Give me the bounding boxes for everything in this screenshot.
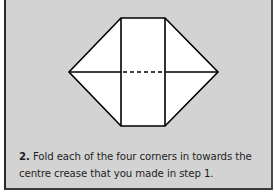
step-instruction: 2. Fold each of the four corners in towa… xyxy=(19,148,269,182)
instruction-line-2: centre crease that you made in step 1. xyxy=(19,165,269,182)
instruction-card: 2. Fold each of the four corners in towa… xyxy=(4,0,273,190)
step-number: 2. xyxy=(19,151,30,162)
instruction-text-1: Fold each of the four corners in towards… xyxy=(33,151,252,162)
instruction-line-1: 2. Fold each of the four corners in towa… xyxy=(19,148,269,165)
